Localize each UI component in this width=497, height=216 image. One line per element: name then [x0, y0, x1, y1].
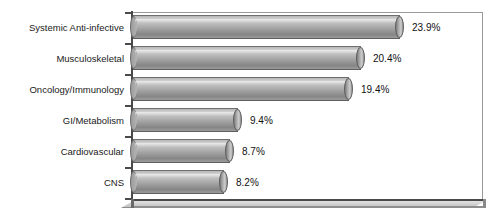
bar-row: CNS8.2% [0, 167, 497, 198]
category-label: GI/Metabolism [0, 105, 124, 136]
bar-highlight [135, 143, 226, 147]
bar-cap-right [233, 109, 242, 131]
bar-row: Cardiovascular8.7% [0, 136, 497, 167]
category-label: Musculoskeletal [0, 43, 124, 74]
y-axis-tick [125, 136, 132, 138]
bar-value-label: 9.4% [250, 105, 273, 136]
bar-cylinder [133, 46, 361, 70]
bar-cylinder [133, 170, 224, 194]
bar-cylinder [133, 77, 349, 101]
bar-value-label: 19.4% [361, 74, 389, 105]
bar-cylinder [133, 139, 230, 163]
bar-cap-right [395, 16, 404, 38]
category-label: Oncology/Immunology [0, 74, 124, 105]
bar-cap-left [130, 171, 137, 193]
bar-value-label: 8.7% [242, 136, 265, 167]
bar-cap-right [356, 47, 365, 69]
bar-cap-right [219, 171, 228, 193]
category-label: Systemic Anti-infective [0, 12, 124, 43]
bar-cap-right [344, 78, 353, 100]
bar-row: GI/Metabolism9.4% [0, 105, 497, 136]
y-axis-tick [125, 167, 132, 169]
bar-value-label: 23.9% [412, 12, 440, 43]
y-axis-tick [125, 43, 132, 45]
bar-row: Musculoskeletal20.4% [0, 43, 497, 74]
bar-chart: Systemic Anti-infective23.9%Musculoskele… [0, 0, 497, 216]
bar-cap-left [130, 140, 137, 162]
bar-cylinder [133, 108, 238, 132]
bar-cap-left [130, 47, 137, 69]
bar-highlight [135, 50, 357, 54]
bar-row: Systemic Anti-infective23.9% [0, 12, 497, 43]
bar-highlight [135, 112, 234, 116]
axis-floor-edge [134, 206, 486, 208]
bar-highlight [135, 81, 345, 85]
bar-cap-right [225, 140, 234, 162]
bar-cap-left [130, 78, 137, 100]
y-axis-tick [125, 12, 132, 14]
axis-origin-foot [131, 199, 134, 208]
bar-cylinder [133, 15, 400, 39]
bar-highlight [135, 19, 396, 23]
bar-value-label: 8.2% [236, 167, 259, 198]
y-axis-tick [125, 74, 132, 76]
category-label: CNS [0, 167, 124, 198]
category-label: Cardiovascular [0, 136, 124, 167]
bar-row: Oncology/Immunology19.4% [0, 74, 497, 105]
y-axis-tick [125, 105, 132, 107]
bar-highlight [135, 174, 220, 178]
bar-cap-left [130, 109, 137, 131]
axis-right-foot [483, 199, 486, 208]
bar-cap-left [130, 16, 137, 38]
bar-value-label: 20.4% [373, 43, 401, 74]
